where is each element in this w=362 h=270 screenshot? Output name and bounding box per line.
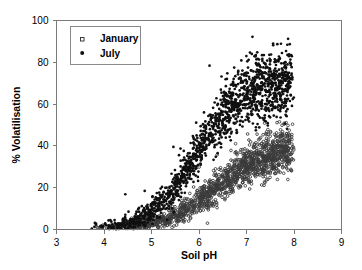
data-point	[180, 191, 183, 194]
data-point	[202, 136, 205, 139]
data-point	[265, 137, 268, 140]
data-point	[230, 159, 233, 162]
data-point	[247, 66, 250, 69]
data-point	[251, 35, 254, 38]
data-point	[239, 76, 242, 79]
data-point	[176, 173, 179, 176]
data-point	[279, 110, 282, 113]
data-point	[172, 146, 175, 149]
data-point	[266, 59, 269, 62]
data-point	[274, 88, 277, 91]
data-point	[257, 100, 260, 103]
data-point	[242, 86, 245, 89]
data-point	[218, 137, 221, 140]
data-point	[189, 160, 192, 163]
data-point	[151, 196, 154, 199]
data-point	[266, 122, 269, 125]
data-point	[254, 55, 257, 58]
data-point	[259, 73, 262, 76]
data-point	[284, 113, 287, 116]
data-point	[235, 132, 238, 135]
data-point	[202, 123, 205, 126]
data-point	[170, 172, 173, 175]
data-point	[174, 183, 177, 186]
data-point	[289, 85, 292, 88]
data-point	[137, 224, 140, 227]
data-point	[108, 225, 111, 228]
data-point	[274, 73, 277, 76]
data-point	[250, 79, 253, 82]
data-point	[220, 75, 223, 78]
data-point	[183, 173, 186, 176]
data-point	[193, 143, 196, 146]
data-point	[172, 211, 175, 214]
data-point	[180, 175, 183, 178]
data-point	[200, 146, 203, 149]
data-point	[247, 117, 250, 120]
data-point	[270, 53, 273, 56]
data-point	[170, 185, 173, 188]
data-point	[216, 152, 219, 155]
data-point	[199, 130, 202, 133]
data-point	[218, 108, 221, 111]
data-point	[279, 81, 282, 84]
data-point	[212, 158, 215, 161]
data-point	[274, 81, 277, 84]
data-point	[239, 103, 242, 106]
data-point	[199, 142, 202, 145]
data-point	[159, 187, 162, 190]
y-tick-label: 20	[37, 182, 49, 193]
data-point	[237, 115, 240, 118]
data-point	[197, 164, 200, 167]
data-point	[262, 175, 265, 178]
data-point	[247, 72, 250, 75]
data-point	[173, 198, 176, 201]
data-point	[191, 135, 194, 138]
data-point	[239, 124, 242, 127]
data-point	[276, 70, 279, 73]
data-point	[220, 88, 223, 91]
data-point	[232, 81, 235, 84]
data-point	[267, 107, 270, 110]
data-point	[242, 120, 245, 123]
data-point	[159, 202, 162, 205]
data-point	[280, 99, 283, 102]
data-point	[235, 84, 238, 87]
data-point	[124, 193, 127, 196]
data-point	[289, 62, 292, 65]
data-point	[230, 110, 233, 113]
data-point	[266, 97, 269, 100]
data-point	[192, 181, 195, 184]
data-point	[248, 76, 251, 79]
data-point	[289, 93, 292, 96]
data-point	[246, 133, 249, 136]
data-point	[137, 208, 140, 211]
data-point	[247, 96, 250, 99]
data-point	[113, 219, 116, 222]
data-point	[149, 203, 152, 206]
data-point	[202, 209, 205, 212]
data-point	[182, 217, 185, 220]
data-point	[269, 116, 272, 119]
data-point	[143, 209, 146, 212]
data-point	[208, 139, 211, 142]
chart-canvas: 3456789 020406080100 Soil pH % Volatilis…	[0, 0, 362, 270]
data-point	[180, 196, 183, 199]
data-point	[245, 103, 248, 106]
data-point	[281, 52, 284, 55]
data-point	[285, 100, 288, 103]
data-point	[239, 151, 242, 154]
data-point	[206, 222, 209, 225]
data-point	[286, 63, 289, 66]
data-point	[159, 223, 162, 226]
legend-label-january: January	[100, 33, 139, 44]
data-point	[208, 124, 211, 127]
data-point	[139, 214, 142, 217]
data-point	[248, 105, 251, 108]
data-point	[287, 169, 290, 172]
data-point	[148, 212, 151, 215]
data-point	[261, 87, 264, 90]
data-point	[192, 138, 195, 141]
legend: January July	[71, 27, 141, 65]
data-point	[226, 195, 229, 198]
